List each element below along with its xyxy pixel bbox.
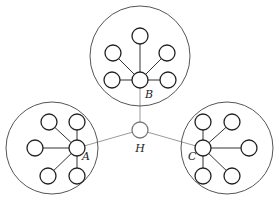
leaf-node — [104, 72, 120, 88]
hub-link-a — [77, 130, 140, 148]
leaf-node — [41, 114, 57, 130]
cluster-a: A — [6, 102, 98, 194]
leaf-node — [224, 114, 240, 130]
network-cluster-diagram: BAC H — [0, 0, 279, 205]
leaf-node — [132, 28, 148, 44]
leaf-node — [195, 114, 211, 130]
leaf-node — [224, 168, 240, 184]
hub-label: H — [134, 142, 145, 155]
cluster-label: C — [188, 150, 197, 163]
cluster-label: B — [144, 88, 153, 101]
hub-link-c — [140, 130, 203, 148]
leaf-node — [69, 114, 85, 130]
hub-node-h: H — [132, 122, 148, 155]
hub-node-circle — [132, 122, 148, 138]
leaf-node — [40, 168, 56, 184]
cluster-label: A — [81, 150, 90, 163]
leaf-node — [69, 168, 85, 184]
leaf-node — [159, 45, 175, 61]
cluster-center-node — [132, 72, 148, 88]
leaf-node — [160, 72, 176, 88]
leaf-node — [241, 140, 257, 156]
cluster-c: C — [181, 102, 273, 194]
leaf-node — [105, 45, 121, 61]
leaf-node — [195, 168, 211, 184]
leaf-node — [27, 140, 43, 156]
cluster-center-node — [195, 140, 211, 156]
